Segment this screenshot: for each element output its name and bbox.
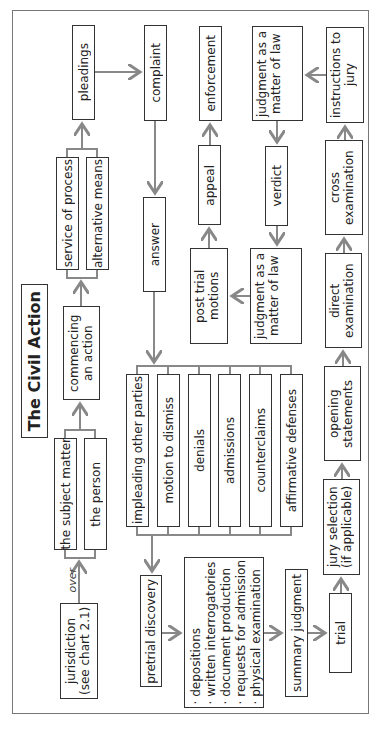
list-item: · written interrogatories bbox=[204, 560, 219, 704]
node-pleadings: pleadings bbox=[72, 25, 95, 120]
node-enforcement: enforcement bbox=[199, 26, 222, 121]
node-instructions-to-jury: instructions to jury bbox=[326, 27, 364, 123]
node-label: service of process bbox=[61, 159, 75, 267]
list-item: · requests for admission bbox=[234, 560, 249, 704]
node-alternative-means: alternative means bbox=[86, 157, 109, 270]
node-trial: trial bbox=[329, 593, 352, 673]
node-verdict: verdict bbox=[265, 146, 288, 226]
node-jurisdiction: jurisdiction (see chart 2.1) bbox=[60, 603, 98, 699]
node-admissions: admissions bbox=[218, 374, 241, 527]
node-denials: denials bbox=[188, 374, 211, 527]
list-item: · document production bbox=[219, 560, 234, 704]
node-label: the person bbox=[89, 462, 103, 527]
node-label: enforcement bbox=[204, 35, 218, 112]
node-post-trial-motions: post trial motions bbox=[190, 248, 228, 344]
node-label: cross examination bbox=[328, 141, 360, 234]
node-label: direct examination bbox=[328, 254, 360, 347]
node-pretrial-discovery: pretrial discovery bbox=[140, 575, 162, 687]
node-label: pleadings bbox=[77, 43, 91, 101]
over-label: over bbox=[66, 568, 79, 593]
node-motion-to-dismiss: motion to dismiss bbox=[157, 374, 180, 527]
node-label: complaint bbox=[149, 43, 163, 103]
node-label: trial bbox=[334, 621, 348, 645]
node-label: instructions to jury bbox=[329, 28, 361, 122]
discovery-methods-list: · depositions · written interrogatories … bbox=[189, 560, 264, 704]
node-cross-examination: cross examination bbox=[325, 140, 363, 235]
node-counterclaims: counterclaims bbox=[249, 374, 272, 527]
diagram-title: The Civil Action bbox=[21, 284, 48, 438]
node-discovery-methods: · depositions · written interrogatories … bbox=[184, 557, 264, 708]
node-judgment-matter-of-law-top: judgment as a matter of law bbox=[252, 26, 303, 121]
node-appeal: appeal bbox=[198, 145, 221, 225]
list-item: · physical examination bbox=[249, 560, 264, 704]
node-jury-selection: jury selection (if applicable) bbox=[323, 479, 360, 575]
list-item: · depositions bbox=[189, 560, 204, 704]
node-label: the subject matter bbox=[59, 438, 73, 550]
node-impleading-other-parties: impleading other parties bbox=[126, 374, 149, 527]
node-label: summary judgment bbox=[290, 574, 304, 692]
node-label: alternative means bbox=[91, 159, 105, 268]
node-label: judgment as a matter of law bbox=[253, 249, 299, 343]
node-label: commencing an action bbox=[67, 307, 97, 399]
node-commencing-action: commencing an action bbox=[63, 306, 100, 400]
node-label: appeal bbox=[203, 165, 217, 206]
node-label: admissions bbox=[223, 417, 237, 484]
node-answer: answer bbox=[143, 197, 166, 292]
node-label: impleading other parties bbox=[131, 376, 145, 524]
node-label: verdict bbox=[270, 165, 284, 206]
node-subject-matter: the subject matter bbox=[54, 438, 77, 550]
node-the-person: the person bbox=[84, 438, 107, 550]
node-label: judgment as a matter of law bbox=[255, 27, 301, 120]
node-direct-examination: direct examination bbox=[325, 253, 362, 348]
node-label: post trial motions bbox=[193, 249, 225, 343]
node-service-of-process: service of process bbox=[56, 157, 79, 270]
node-label: counterclaims bbox=[254, 408, 268, 492]
title-text: The Civil Action bbox=[28, 291, 42, 431]
node-label: jury selection (if applicable) bbox=[326, 480, 358, 574]
node-label: denials bbox=[193, 429, 207, 472]
node-label: pretrial discovery bbox=[144, 579, 158, 684]
node-label: motion to dismiss bbox=[162, 397, 176, 503]
node-label: opening statements bbox=[327, 367, 359, 460]
node-opening-statements: opening statements bbox=[324, 366, 361, 461]
node-judgment-matter-of-law-mid: judgment as a matter of law bbox=[250, 248, 302, 344]
node-summary-judgment: summary judgment bbox=[285, 569, 308, 697]
node-label: jurisdiction (see chart 2.1) bbox=[64, 604, 94, 698]
node-label: affirmative defenses bbox=[285, 389, 299, 512]
node-complaint: complaint bbox=[144, 25, 167, 121]
node-affirmative-defenses: affirmative defenses bbox=[280, 374, 303, 527]
node-label: answer bbox=[148, 223, 162, 266]
